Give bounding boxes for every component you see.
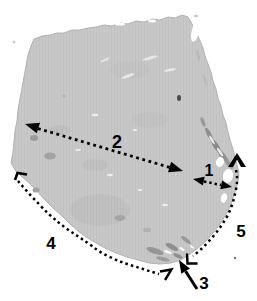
- annotated-micrograph-canvas: 2 1 4 5 3: [0, 0, 257, 301]
- boundary-4-end-corner-marker-icon: [160, 270, 172, 281]
- label-2: 2: [112, 132, 122, 152]
- label-3: 3: [199, 274, 208, 293]
- micrograph-figure: 2 1 4 5 3: [0, 0, 257, 301]
- tissue-section: [11, 15, 239, 264]
- pointer-arrow-3: 3: [179, 260, 209, 293]
- pointer-arrow-3-shaft: [186, 271, 197, 289]
- label-5: 5: [236, 222, 245, 241]
- label-1: 1: [205, 162, 214, 179]
- label-4: 4: [46, 234, 56, 253]
